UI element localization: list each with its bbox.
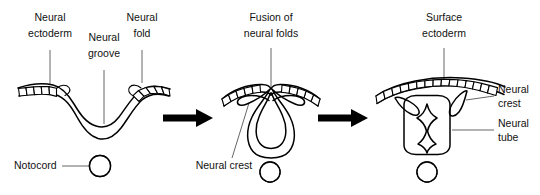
label-fusion-line2: neural folds: [244, 27, 298, 39]
label-notocord: Notocord: [14, 159, 57, 171]
label-neural-fold: Neural fold: [127, 11, 158, 39]
label-neural-fold-line1: Neural: [127, 11, 158, 23]
label-neural-tube: Neural tube: [498, 117, 529, 143]
label-surface-ectoderm: Surface ectoderm: [422, 11, 466, 39]
label-neural-groove: Neural groove: [88, 31, 120, 59]
label-neural-groove-line1: Neural: [89, 31, 120, 43]
arrow-2: [318, 109, 368, 127]
label-notocord-text: Notocord: [14, 159, 57, 171]
label-neural-crest-stage-2: Neural crest: [196, 159, 253, 171]
neural-crest-lobe-left-3: [395, 97, 419, 115]
neurulation-diagram: Neural ectoderm Neural groove Neural fol…: [0, 0, 540, 195]
label-surface-ectoderm-line1: Surface: [426, 11, 462, 23]
neural-tube-lumen-3: [417, 104, 437, 153]
notochord-stage-1: [90, 156, 111, 177]
ectoderm-cells-arch-3: [376, 79, 498, 103]
neural-plate-outline-lower: [19, 93, 169, 139]
label-neural-ectoderm-line2: ectoderm: [28, 27, 72, 39]
ectoderm-cells-right-1: [133, 86, 170, 101]
label-neural-tube-line2: tube: [498, 131, 519, 143]
leader-neural-crest-3: [466, 96, 494, 100]
notochord-stage-2: [260, 162, 280, 182]
label-neural-crest-3-line2: crest: [498, 97, 521, 109]
label-neural-ectoderm-line1: Neural: [35, 11, 66, 23]
label-neural-crest-3-line1: Neural: [498, 83, 529, 95]
label-fusion-line1: Fusion of: [249, 11, 292, 23]
label-neural-crest-stage-3: Neural crest: [498, 83, 529, 109]
notochord-stage-3: [417, 162, 437, 182]
label-surface-ectoderm-line2: ectoderm: [422, 27, 466, 39]
label-neural-tube-line1: Neural: [498, 117, 529, 129]
stage-3-drawing: [376, 48, 505, 182]
label-fusion-of-neural-folds: Fusion of neural folds: [244, 11, 298, 39]
ectoderm-cells-left-1: [19, 87, 57, 97]
label-neural-fold-line2: fold: [134, 27, 151, 39]
stage-1-drawing: [18, 50, 170, 177]
neural-tube-lumen-2: [256, 93, 286, 148]
neural-tube-outer-2: [248, 89, 295, 158]
leader-neural-crest-2: [232, 103, 249, 158]
label-neural-ectoderm: Neural ectoderm: [28, 11, 72, 39]
neural-crest-lobe-right-3: [449, 91, 467, 116]
label-neural-groove-line2: groove: [88, 47, 120, 59]
label-neural-crest-2-text: Neural crest: [196, 159, 253, 171]
arrow-1: [163, 109, 213, 127]
